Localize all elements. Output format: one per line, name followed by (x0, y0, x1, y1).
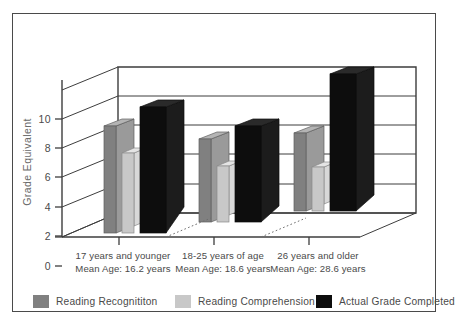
bar-group-1 (199, 119, 279, 222)
bar-front-face (199, 139, 211, 222)
floor-right-edge (360, 213, 416, 237)
bar-front-face (294, 133, 306, 211)
depth-edge-top (62, 67, 118, 90)
bar-actual-grade-0 (140, 100, 184, 233)
legend-item-reading-comprehension[interactable]: Reading Comprehension (175, 290, 315, 312)
legend-swatch-icon (316, 295, 332, 308)
legend-label: Reading Comprehension (198, 296, 315, 307)
y-axis-ticks (55, 119, 62, 266)
legend-swatch-icon (33, 295, 49, 308)
bar-actual-grade-1 (235, 119, 279, 222)
y-tick-label-0: 0 (45, 260, 51, 272)
y-tick-label-10: 10 (39, 113, 51, 125)
y-axis-title: Grade Equivalent (21, 118, 33, 206)
chart-plot-area: 10 8 6 4 2 0 Grade Equivalent (13, 14, 437, 313)
bar-actual-grade-2 (330, 67, 374, 211)
legend-swatch-icon (175, 295, 191, 308)
bar-side-face (356, 67, 374, 211)
bar-front-face (330, 74, 356, 211)
bar-group-0 (104, 100, 184, 233)
gridline-depth-10 (62, 96, 118, 119)
bar-front-face (217, 166, 229, 222)
category-label-2-line1: 26 years and older (277, 250, 359, 261)
bar-group-2 (294, 67, 374, 211)
category-label-0-line1: 17 years and younger (76, 250, 172, 261)
bar-front-face (104, 126, 116, 233)
y-tick-label-2: 2 (45, 230, 51, 242)
legend-item-reading-recognition[interactable]: Reading Recognititon (33, 290, 157, 312)
category-label-1-line2: Mean Age: 18.6 years (175, 263, 270, 274)
legend-label: Actual Grade Completed (339, 296, 455, 307)
chart-legend: Reading Recognititon Reading Comprehensi… (13, 290, 437, 312)
y-axis-tick-labels: 10 8 6 4 2 0 (39, 113, 51, 272)
x-axis-category-labels: 17 years and younger Mean Age: 16.2 year… (75, 250, 365, 274)
bar-front-face (122, 153, 134, 233)
y-tick-label-6: 6 (45, 171, 51, 183)
bar-front-face (235, 126, 261, 222)
y-tick-label-4: 4 (45, 201, 51, 213)
bar-front-face (312, 167, 324, 211)
y-tick-label-8: 8 (45, 142, 51, 154)
legend-label: Reading Recognititon (56, 296, 157, 307)
x-axis-ticks (119, 237, 309, 245)
chart-figure: 10 8 6 4 2 0 Grade Equivalent (12, 13, 436, 312)
category-label-1-line1: 18-25 years of age (182, 250, 264, 261)
floor-separator-1 (261, 218, 306, 237)
bar-side-face (261, 119, 279, 222)
category-label-2-line2: Mean Age: 28.6 years (270, 263, 365, 274)
legend-item-actual-grade-completed[interactable]: Actual Grade Completed (316, 290, 455, 312)
bar-front-face (140, 107, 166, 233)
category-label-0-line2: Mean Age: 16.2 years (75, 263, 170, 274)
